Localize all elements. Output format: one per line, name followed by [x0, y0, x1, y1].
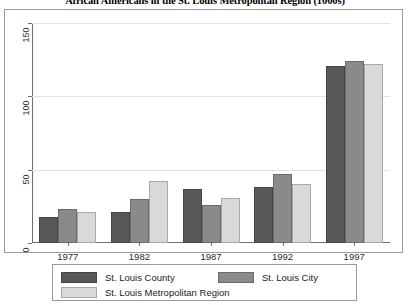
- y-tick-150: [28, 23, 32, 24]
- bar-group-1982: [111, 23, 168, 243]
- y-tick-0: [28, 243, 32, 244]
- y-axis-label-50: 50: [22, 174, 31, 184]
- legend-swatch-metro: [61, 287, 97, 298]
- chart-title: African Americans in the St. Louis Metro…: [0, 0, 410, 6]
- x-axis-labels: 19771982198719921997: [32, 245, 390, 261]
- bar-1992-st-louis-county[interactable]: [254, 187, 273, 243]
- bar-1997-st-louis-county[interactable]: [326, 66, 345, 243]
- legend-item-metro[interactable]: St. Louis Metropolitan Region: [61, 285, 230, 300]
- legend-label-county: St. Louis County: [105, 273, 175, 283]
- chart-figure: African Americans in the St. Louis Metro…: [0, 0, 410, 305]
- x-axis-label-1992: 1992: [248, 251, 318, 262]
- bar-1982-st-louis-city[interactable]: [130, 199, 149, 243]
- bar-1977-st-louis-county[interactable]: [39, 217, 58, 243]
- legend-item-county[interactable]: St. Louis County: [61, 270, 175, 285]
- y-tick-100: [28, 96, 32, 97]
- bar-1997-st-louis-metropolitan-region[interactable]: [364, 64, 383, 243]
- x-axis-label-1982: 1982: [104, 251, 174, 262]
- legend-swatch-county: [61, 272, 97, 283]
- bar-1982-st-louis-county[interactable]: [111, 212, 130, 243]
- bar-1997-st-louis-city[interactable]: [345, 61, 364, 243]
- bar-group-1992: [254, 23, 311, 243]
- y-tick-50: [28, 170, 32, 171]
- chart-legend: St. Louis County St. Louis City St. Loui…: [52, 264, 357, 301]
- bar-1992-st-louis-metropolitan-region[interactable]: [292, 184, 311, 243]
- bar-1977-st-louis-metropolitan-region[interactable]: [77, 212, 96, 243]
- chart-axes: 050100150: [32, 23, 390, 243]
- legend-label-city: St. Louis City: [262, 273, 318, 283]
- bar-group-1977: [39, 23, 96, 243]
- y-axis-label-150: 150: [22, 28, 31, 43]
- bar-1987-st-louis-metropolitan-region[interactable]: [221, 198, 240, 243]
- bar-group-1987: [183, 23, 240, 243]
- y-axis-label-0: 0: [22, 248, 31, 253]
- legend-item-city[interactable]: St. Louis City: [218, 270, 318, 285]
- bar-group-1997: [326, 23, 383, 243]
- x-axis-label-1987: 1987: [176, 251, 246, 262]
- x-axis-label-1997: 1997: [319, 251, 389, 262]
- bar-1987-st-louis-city[interactable]: [202, 205, 221, 243]
- bar-1977-st-louis-city[interactable]: [58, 209, 77, 243]
- bar-1992-st-louis-city[interactable]: [273, 174, 292, 243]
- x-axis-label-1977: 1977: [33, 251, 103, 262]
- legend-label-metro: St. Louis Metropolitan Region: [105, 288, 230, 298]
- y-axis-label-100: 100: [22, 101, 31, 116]
- bar-1987-st-louis-county[interactable]: [183, 189, 202, 243]
- legend-swatch-city: [218, 272, 254, 283]
- bar-1982-st-louis-metropolitan-region[interactable]: [149, 181, 168, 243]
